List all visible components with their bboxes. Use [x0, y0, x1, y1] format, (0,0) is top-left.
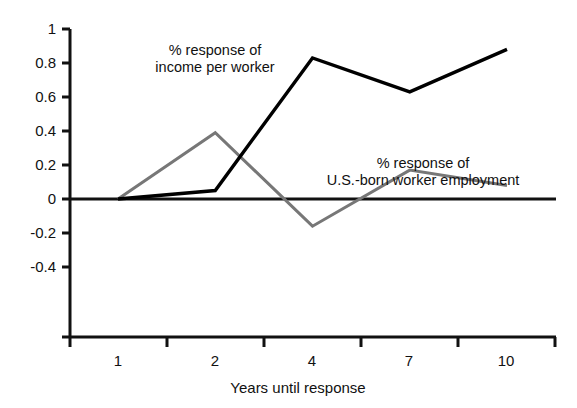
income-annotation-line-2: income per worker [100, 59, 330, 76]
income-annotation: % response of income per worker [100, 42, 330, 76]
y-tick-label-0_2: 0.2 [8, 157, 56, 172]
y-tick-label-0_6: 0.6 [8, 89, 56, 104]
x-tick-label-1: 1 [98, 353, 138, 368]
employment-annotation: % response of U.S.-born worker employmen… [288, 155, 558, 189]
income-annotation-line-1: % response of [100, 42, 330, 59]
y-tick-label-neg0_2: -0.2 [0, 225, 56, 240]
x-tick-label-4: 4 [292, 353, 332, 368]
y-tick-label-0_4: 0.4 [8, 123, 56, 138]
x-tick-label-2: 2 [195, 353, 235, 368]
x-axis-title: Years until response [168, 379, 428, 396]
x-tick-label-7: 7 [389, 353, 429, 368]
x-tick-label-10: 10 [486, 353, 526, 368]
chart-figure: 1 0.8 0.6 0.4 0.2 0 -0.2 -0.4 1 2 4 7 10… [0, 0, 577, 408]
y-tick-label-0: 0 [8, 191, 56, 206]
employment-annotation-line-2: U.S.-born worker employment [288, 172, 558, 189]
y-tick-label-0_8: 0.8 [8, 55, 56, 70]
y-tick-label-neg0_4: -0.4 [0, 259, 56, 274]
employment-annotation-line-1: % response of [288, 155, 558, 172]
y-tick-label-1: 1 [8, 21, 56, 36]
